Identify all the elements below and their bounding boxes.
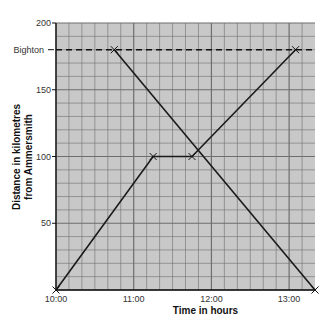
- y-axis-title-line: Distance in kilometres: [11, 103, 22, 210]
- x-axis-ticks: 10:0011:0012:0013:00: [45, 294, 301, 304]
- x-tick-label: 13:00: [278, 294, 301, 304]
- y-tick-label: 50: [41, 218, 51, 228]
- distance-time-chart: Bighton 10:0011:0012:0013:00 50100150200…: [0, 0, 331, 326]
- y-axis-title-line: from Ammersmith: [23, 114, 34, 200]
- bighton-label: Bighton: [13, 45, 44, 55]
- y-tick-label: 150: [36, 85, 51, 95]
- x-axis-title: Time in hours: [173, 305, 239, 316]
- y-axis-title: Distance in kilometresfrom Ammersmith: [11, 103, 34, 210]
- x-tick-label: 12:00: [200, 294, 223, 304]
- y-tick-label: 200: [36, 18, 51, 28]
- x-tick-label: 10:00: [45, 294, 68, 304]
- y-tick-label: 100: [36, 152, 51, 162]
- x-tick-label: 11:00: [123, 294, 145, 304]
